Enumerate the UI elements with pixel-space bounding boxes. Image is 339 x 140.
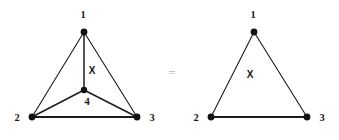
vertex-1 [251, 29, 258, 36]
figure-canvas: X1234 = X123 [0, 0, 339, 140]
graph-equivalence-diagram: X1234 = X123 [0, 0, 339, 140]
face-label-x: X [247, 69, 254, 80]
equals-relation: = [168, 65, 175, 80]
vertex-label-3: 3 [149, 112, 154, 123]
vertex-label-4: 4 [84, 96, 90, 107]
vertex-2 [29, 114, 36, 121]
vertex-label-3: 3 [319, 112, 324, 123]
vertex-label-1: 1 [250, 9, 255, 20]
vertex-label-2: 2 [193, 112, 198, 123]
vertex-label-1: 1 [80, 9, 85, 20]
vertex-label-2: 2 [14, 112, 19, 123]
left-graph: X1234 [14, 9, 154, 123]
vertex-2 [208, 114, 215, 121]
equals-sign: = [168, 65, 175, 80]
vertex-4 [81, 87, 87, 93]
vertex-3 [304, 114, 311, 121]
vertex-3 [134, 114, 141, 121]
edge-1-3 [254, 32, 307, 117]
right-graph: X123 [193, 9, 324, 123]
vertex-1 [81, 29, 88, 36]
face-label-x: X [89, 65, 96, 76]
